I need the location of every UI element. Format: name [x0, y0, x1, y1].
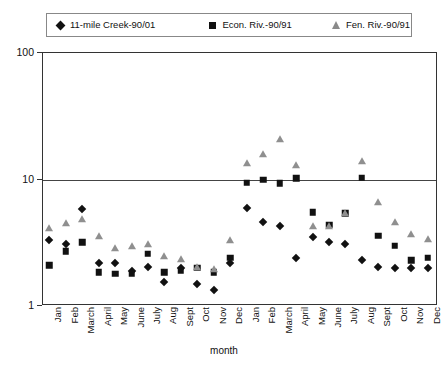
x-axis-tick-label: Aug	[167, 307, 178, 324]
data-point-diamond	[358, 256, 366, 264]
data-point-square	[425, 255, 432, 262]
x-axis-tick-label: March	[283, 307, 294, 333]
data-point-diamond	[341, 240, 349, 248]
data-point-square	[359, 175, 366, 182]
triangle-marker-icon	[332, 21, 340, 29]
y-axis-tick-label: 1	[28, 299, 34, 311]
data-point-diamond	[292, 254, 300, 262]
data-point-diamond	[61, 240, 69, 248]
x-axis-tick-label: Nov	[217, 307, 228, 324]
data-point-square	[260, 176, 267, 183]
y-axis: 100101	[0, 0, 42, 370]
x-axis-tick-label: May	[118, 307, 129, 325]
data-point-diamond	[210, 285, 218, 293]
data-point-triangle	[193, 263, 201, 270]
data-point-square	[276, 180, 283, 187]
data-point-triangle	[45, 225, 53, 232]
legend-label-0: 11-mile Creek-90/01	[70, 20, 155, 30]
square-marker-icon	[209, 22, 216, 29]
data-point-triangle	[259, 150, 267, 157]
data-point-square	[375, 232, 382, 239]
data-point-diamond	[259, 218, 267, 226]
x-axis-tick-label: Sept	[184, 307, 195, 327]
data-point-square	[392, 242, 399, 249]
data-point-triangle	[341, 209, 349, 216]
data-point-triangle	[62, 220, 70, 227]
legend-item-econ-riv: Econ. Riv.-90/91	[209, 20, 292, 30]
data-point-triangle	[374, 198, 382, 205]
data-point-diamond	[160, 278, 168, 286]
gridline-10	[43, 180, 436, 181]
x-axis-tick-label: Nov	[414, 307, 425, 324]
data-point-diamond	[275, 222, 283, 230]
data-point-triangle	[325, 222, 333, 229]
data-point-diamond	[111, 258, 119, 266]
data-point-diamond	[144, 262, 152, 270]
data-point-square	[128, 270, 135, 277]
x-axis-tick-label: Jan	[250, 307, 261, 322]
data-point-square	[46, 262, 53, 269]
data-point-diamond	[407, 264, 415, 272]
data-point-diamond	[94, 258, 102, 266]
data-point-diamond	[242, 203, 250, 211]
x-axis-tick-label: Jan	[52, 307, 63, 322]
y-axis-tick-mark	[37, 305, 42, 306]
legend-item-11-mile-creek: 11-mile Creek-90/01	[57, 20, 155, 30]
data-point-square	[161, 269, 168, 276]
data-point-diamond	[193, 279, 201, 287]
x-axis-title: month	[0, 345, 448, 356]
plot-area	[42, 52, 437, 305]
legend-label-1: Econ. Riv.-90/91	[222, 20, 292, 30]
data-point-triangle	[243, 159, 251, 166]
data-point-triangle	[95, 232, 103, 239]
data-point-diamond	[325, 238, 333, 246]
data-point-square	[178, 267, 185, 274]
x-axis-tick-label: June	[135, 307, 146, 328]
x-axis-tick-label: Feb	[266, 307, 277, 323]
data-point-triangle	[424, 235, 432, 242]
data-point-triangle	[358, 157, 366, 164]
data-point-triangle	[309, 222, 317, 229]
x-axis-tick-label: July	[151, 307, 162, 324]
data-point-square	[293, 175, 300, 182]
x-axis-tick-label: Oct	[398, 307, 409, 322]
data-point-diamond	[424, 264, 432, 272]
x-axis-tick-label: June	[332, 307, 343, 328]
data-point-triangle	[292, 161, 300, 168]
data-point-square	[227, 255, 234, 262]
data-point-triangle	[276, 135, 284, 142]
x-axis-tick-label: Sept	[381, 307, 392, 327]
x-axis-tick-label: Aug	[365, 307, 376, 324]
data-point-triangle	[78, 215, 86, 222]
data-point-triangle	[144, 240, 152, 247]
data-point-diamond	[45, 236, 53, 244]
chart-container: 11-mile Creek-90/01 Econ. Riv.-90/91 Fen…	[0, 0, 448, 370]
x-axis-tick-label: May	[316, 307, 327, 325]
data-point-diamond	[78, 205, 86, 213]
y-axis-tick-label: 100	[16, 46, 34, 58]
data-point-square	[95, 269, 102, 276]
y-axis-tick-label: 10	[22, 173, 34, 185]
data-point-square	[309, 209, 316, 216]
data-point-triangle	[226, 237, 234, 244]
data-point-triangle	[391, 218, 399, 225]
legend-label-2: Fen. Riv.-90/91	[346, 20, 410, 30]
data-point-square	[145, 250, 152, 257]
diamond-marker-icon	[56, 20, 66, 30]
data-point-triangle	[177, 255, 185, 262]
x-axis-tick-label: Feb	[69, 307, 80, 323]
data-point-square	[112, 270, 119, 277]
data-point-square	[408, 257, 415, 264]
data-point-diamond	[391, 264, 399, 272]
data-point-square	[62, 248, 69, 255]
data-point-diamond	[308, 233, 316, 241]
x-axis-tick-label: March	[85, 307, 96, 333]
data-point-diamond	[374, 262, 382, 270]
data-point-square	[243, 180, 250, 187]
data-point-triangle	[128, 242, 136, 249]
data-point-triangle	[407, 230, 415, 237]
x-axis-tick-label: Dec	[431, 307, 442, 324]
x-axis-tick-label: Oct	[200, 307, 211, 322]
x-axis-tick-label: April	[102, 307, 113, 326]
data-point-triangle	[210, 265, 218, 272]
